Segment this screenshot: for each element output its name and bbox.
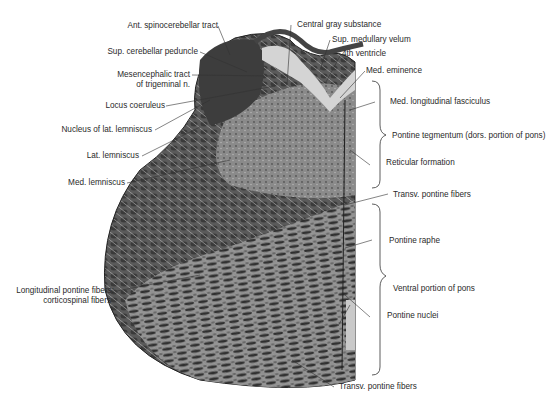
brackets xyxy=(372,81,386,375)
label-ventral-portion-of-pons: Ventral portion of pons xyxy=(393,284,475,294)
label-transv-pontine-fibers-lower: Transv. pontine fibers xyxy=(339,382,417,392)
label-transv-pontine-fibers-upper: Transv. pontine fibers xyxy=(393,190,471,200)
label-longitudinal-pontine-fibers: Longitudinal pontine fibers: xyxy=(16,286,114,296)
pons-cross-section-figure: Ant. spinocerebellar tract Sup. cerebell… xyxy=(0,0,555,407)
label-4th-ventricle: 4th ventricle xyxy=(342,49,386,59)
label-reticular-formation: Reticular formation xyxy=(386,158,455,168)
label-ant-spinocerebellar-tract: Ant. spinocerebellar tract xyxy=(127,21,218,31)
label-pontine-raphe: Pontine raphe xyxy=(389,236,440,246)
label-sup-medullary-velum: Sup. medullary velum xyxy=(332,35,411,45)
label-mesencephalic-tract-line2: of trigeminal n. xyxy=(136,80,190,90)
label-pontine-tegmentum: Pontine tegmentum (dors. portion of pons… xyxy=(392,131,545,141)
label-pontine-nuclei: Pontine nuclei xyxy=(387,311,438,321)
label-corticospinal-fibers: corticospinal fibers xyxy=(43,296,111,306)
label-lat-lemniscus: Lat. lemniscus xyxy=(87,151,139,161)
label-med-longitudinal-fasciculus: Med. longitudinal fasciculus xyxy=(390,97,490,107)
label-med-eminence: Med. eminence xyxy=(366,66,422,76)
label-sup-cerebellar-peduncle: Sup. cerebellar peduncle xyxy=(107,47,198,57)
label-locus-coeruleus: Locus coeruleus xyxy=(105,101,165,111)
label-central-gray-substance: Central gray substance xyxy=(297,20,381,30)
label-med-lemniscus: Med. lemniscus xyxy=(68,178,125,188)
pons-section-illustration xyxy=(0,0,555,407)
label-mesencephalic-tract: Mesencephalic tract xyxy=(117,70,190,80)
label-nucleus-lat-lemniscus: Nucleus of lat. lemniscus xyxy=(61,125,152,135)
